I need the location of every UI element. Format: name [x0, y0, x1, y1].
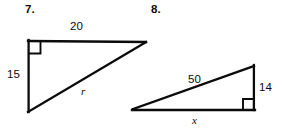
triangle-8: [132, 65, 255, 110]
triangle-7-top-side-label: 20: [70, 21, 83, 33]
triangle-7-hypotenuse-label: r: [81, 86, 85, 97]
problem-8-number: 8.: [151, 4, 161, 16]
triangle-8-hypotenuse-label: 50: [188, 74, 201, 86]
triangle-7-right-angle-marker: [29, 42, 41, 54]
triangle-7: [28, 40, 146, 112]
triangle-8-bottom-side-label: x: [192, 115, 197, 126]
problem-7-number: 7.: [25, 4, 35, 16]
triangle-8-right-side-label: 14: [259, 82, 272, 94]
triangle-7-hypotenuse: [28, 42, 146, 112]
triangle-7-left-side-label: 15: [7, 69, 20, 81]
worksheet-canvas: 7. 20 15 r 8. 50 14 x: [0, 0, 284, 131]
geometry-figures: [0, 0, 284, 131]
triangle-7-top-side: [28, 41, 146, 42]
triangle-8-right-angle-marker: [243, 99, 254, 110]
